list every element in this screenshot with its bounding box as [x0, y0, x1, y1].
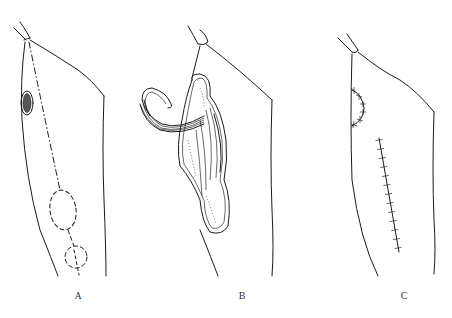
panel-c-hip-joint	[338, 34, 358, 53]
panel-a-hip-joint	[14, 22, 30, 40]
panel-c-donor-suture-stitches	[376, 139, 402, 248]
panel-a-thigh-right-contour	[103, 96, 106, 276]
panel-b-hip-joint	[188, 26, 208, 45]
panel-a-defect-fill	[23, 94, 31, 113]
panel-a-label: A	[68, 290, 88, 301]
surgical-illustration	[0, 0, 452, 318]
panel-c-label: C	[394, 290, 414, 301]
panel-b-muscle-bed-outer	[178, 74, 229, 233]
panel-a-thigh-top-contour	[30, 40, 104, 96]
panel-c-drawing	[338, 34, 435, 276]
panel-a-flap-outline-large	[47, 188, 78, 231]
panel-a-flap-outline-small	[65, 246, 87, 268]
panel-b-label: B	[232, 290, 252, 301]
panel-b-flap-tube-lines	[141, 92, 204, 130]
panel-a-drawing	[14, 22, 106, 276]
panel-b-drawing	[140, 26, 273, 276]
panel-c-thigh-right-contour	[433, 112, 435, 274]
panel-a-thigh-left-contour	[21, 42, 58, 276]
panel-a-connector-line	[68, 230, 74, 246]
panel-b-thigh-right-contour	[271, 100, 273, 276]
panel-b-muscle-bed-inner	[182, 78, 225, 228]
panel-c-donor-suture-line	[379, 138, 399, 252]
panel-a-axis-tail	[74, 250, 79, 275]
panel-c-thigh-left-contour	[351, 54, 378, 276]
panel-a-axis-line	[29, 42, 60, 190]
panel-c-thigh-top-contour	[358, 52, 434, 112]
panel-b-thigh-top-contour	[206, 44, 272, 100]
